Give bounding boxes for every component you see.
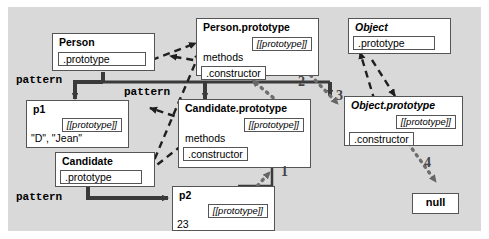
box-p1-value: "D", "Jean" <box>27 132 128 144</box>
box-person-prototype[interactable]: Person.prototype [[prototype]] methods .… <box>196 18 319 76</box>
box-person-prototype-constructor[interactable]: .constructor <box>201 66 266 80</box>
chain-number-1: 1 <box>281 164 288 180</box>
pattern-label-top: pattern <box>16 74 62 86</box>
box-p2-value: 23 <box>173 218 274 230</box>
box-candidate-prototype[interactable]: Candidate.prototype [[prototype]] method… <box>178 99 311 168</box>
box-person-prototype-proto-slot[interactable]: [[prototype]] <box>252 37 312 51</box>
connector-person-to-p1 <box>75 72 103 99</box>
chain-number-4: 4 <box>424 155 431 171</box>
box-candidate-prototype-title: Candidate.prototype <box>179 100 310 114</box>
box-person-prototype-title: Person.prototype <box>197 19 318 33</box>
box-p2[interactable]: p2 [[prototype]] 23 <box>172 186 275 231</box>
diagram-canvas: Person .prototype Person.prototype [[pro… <box>0 0 489 239</box>
box-null-label: null <box>426 196 446 208</box>
box-object-prototype-slot[interactable]: .prototype <box>353 36 435 50</box>
connector-pattern-spine <box>75 82 330 99</box>
box-object-prototype-proto-slot[interactable]: [[prototype]] <box>396 115 456 129</box>
box-null[interactable]: null <box>412 193 459 214</box>
box-person-prototype-slot[interactable]: .prototype <box>58 52 146 66</box>
box-candidate-prototype-proto-slot[interactable]: [[prototype]] <box>244 118 304 132</box>
box-candidate-prototype-slot[interactable]: .prototype <box>60 170 142 184</box>
box-person-title: Person <box>53 34 154 48</box>
box-object-prototype[interactable]: Object.prototype [[prototype]] .construc… <box>344 96 463 146</box>
pattern-label-mid: pattern <box>124 86 170 98</box>
chain-number-2: 2 <box>298 74 305 90</box>
box-object-prototype-title: Object.prototype <box>345 97 462 111</box>
box-p1-proto-slot[interactable]: [[prototype]] <box>62 118 122 132</box>
chain-number-3: 3 <box>336 88 343 104</box>
box-p1-title: p1 <box>27 101 128 115</box>
box-candidate-prototype-methods: methods <box>179 132 310 144</box>
box-candidate-title: Candidate <box>56 153 154 167</box>
box-p2-proto-slot[interactable]: [[prototype]] <box>208 204 268 218</box>
pattern-label-bottom: pattern <box>16 191 62 203</box>
box-p2-title: p2 <box>173 187 274 201</box>
box-object[interactable]: Object .prototype <box>348 18 451 54</box>
box-object-prototype-constructor[interactable]: .constructor <box>349 132 414 146</box>
box-person[interactable]: Person .prototype <box>52 33 155 71</box>
box-candidate[interactable]: Candidate .prototype <box>55 152 155 187</box>
box-person-prototype-methods: methods <box>197 51 318 63</box>
box-candidate-prototype-constructor[interactable]: .constructor <box>183 147 248 161</box>
box-object-title: Object <box>349 19 450 33</box>
box-p1[interactable]: p1 [[prototype]] "D", "Jean" <box>26 100 129 148</box>
